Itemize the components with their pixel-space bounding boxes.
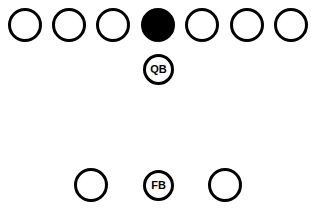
qb-label: QB (150, 64, 167, 75)
lineman-2 (52, 8, 86, 42)
quarterback: QB (143, 54, 174, 85)
lineman-3 (96, 8, 130, 42)
fullback: FB (143, 170, 174, 201)
left-halfback (74, 168, 108, 202)
right-halfback (208, 168, 242, 202)
fb-label: FB (151, 180, 166, 191)
lineman-6 (230, 8, 264, 42)
lineman-5 (185, 8, 219, 42)
lineman-7 (274, 8, 308, 42)
lineman-1 (8, 8, 42, 42)
center-filled (141, 8, 175, 42)
